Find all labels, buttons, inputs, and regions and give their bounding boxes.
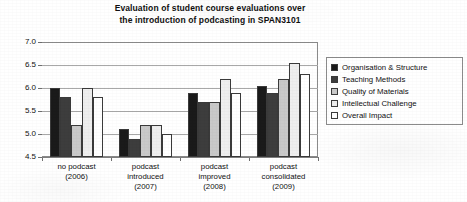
x-axis-category-label: podcastconsolidated(2009) <box>243 162 324 192</box>
bar <box>198 102 209 157</box>
legend-item[interactable]: Teaching Methods <box>331 73 459 85</box>
y-axis-tick-label: 4.5 <box>10 153 36 161</box>
y-axis-tick-label: 6.0 <box>10 84 36 92</box>
legend-item[interactable]: Intellectual Challenge <box>331 97 459 109</box>
y-axis-tick-label: 5.0 <box>10 130 36 138</box>
bar <box>289 63 300 157</box>
bar <box>257 86 268 157</box>
bar <box>220 79 231 157</box>
bar <box>119 129 130 157</box>
chart-legend: Organisation & StructureTeaching Methods… <box>326 57 463 125</box>
legend-swatch-icon <box>331 112 338 119</box>
y-axis-tick-label: 7.0 <box>10 38 36 46</box>
x-axis-label-line: podcast <box>243 162 324 172</box>
bar <box>231 93 242 157</box>
chart-title-line-1: Evaluation of student course evaluations… <box>60 3 360 15</box>
x-axis-label-line: (2009) <box>243 182 324 192</box>
bars-layer <box>42 42 318 157</box>
bar <box>50 88 61 157</box>
bar <box>60 97 71 157</box>
bar <box>140 125 151 157</box>
legend-item-label: Organisation & Structure <box>342 63 427 72</box>
chart-title-line-2: the introduction of podcasting in SPAN31… <box>60 15 360 27</box>
axis-baseline <box>42 157 318 158</box>
legend-item-label: Intellectual Challenge <box>342 99 417 108</box>
legend-swatch-icon <box>331 100 338 107</box>
legend-item-label: Overall Impact <box>342 111 392 120</box>
bar <box>151 125 162 157</box>
bar <box>267 93 278 157</box>
x-axis-label-line: consolidated <box>243 172 324 182</box>
bar <box>162 134 173 157</box>
legend-swatch-icon <box>331 88 338 95</box>
bar <box>129 139 140 157</box>
bar <box>82 88 93 157</box>
legend-item[interactable]: Organisation & Structure <box>331 61 459 73</box>
bar <box>300 74 311 157</box>
legend-item-label: Quality of Materials <box>342 87 409 96</box>
y-axis-tick-label: 5.5 <box>10 107 36 115</box>
legend-swatch-icon <box>331 76 338 83</box>
bar <box>188 93 199 157</box>
bar <box>278 79 289 157</box>
legend-item[interactable]: Quality of Materials <box>331 85 459 97</box>
legend-item[interactable]: Overall Impact <box>331 109 459 121</box>
x-axis-tick <box>318 157 319 161</box>
bar <box>93 97 104 157</box>
y-axis-tick-label: 6.5 <box>10 61 36 69</box>
legend-swatch-icon <box>331 64 338 71</box>
bar-chart: Evaluation of student course evaluations… <box>0 0 467 202</box>
chart-title: Evaluation of student course evaluations… <box>60 3 360 26</box>
bar <box>71 125 82 157</box>
legend-item-label: Teaching Methods <box>342 75 405 84</box>
bar <box>209 102 220 157</box>
